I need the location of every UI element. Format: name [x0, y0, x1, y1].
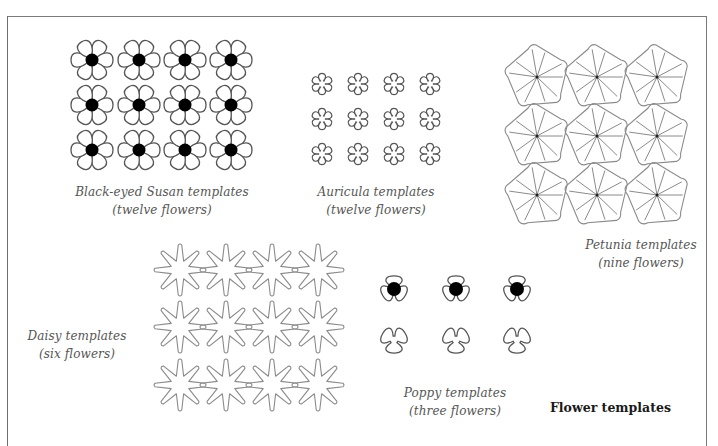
daisy-flower: [200, 244, 252, 296]
caption-count: (twelve flowers): [62, 201, 262, 219]
spoke: [636, 136, 657, 151]
black-eyed-susan-flower: [164, 41, 206, 80]
black-eyed-susan-flower: [118, 131, 160, 170]
spoke: [525, 195, 537, 220]
daisy-flower: [200, 301, 252, 353]
flower-outline: [565, 45, 627, 106]
auricula-flower: [420, 143, 440, 164]
spoke: [525, 136, 537, 161]
caption-title: Daisy templates: [12, 327, 142, 345]
auricula-flower: [348, 143, 368, 164]
flower-outline: [384, 143, 404, 164]
flower-center: [225, 99, 238, 112]
flower-outline: [505, 45, 567, 106]
petunia-flower: [565, 163, 627, 224]
black-eyed-susan-group: [71, 41, 252, 170]
flower-outline: [625, 104, 687, 165]
flower-outline: [504, 328, 531, 353]
daisy-flower: [154, 359, 206, 411]
flower-outline: [154, 359, 206, 411]
daisy-flower: [154, 301, 206, 353]
spoke: [585, 195, 597, 220]
auricula-flower: [420, 73, 440, 94]
flower-outline: [625, 163, 687, 224]
auricula-flower: [384, 108, 404, 129]
petunia-flower: [505, 163, 567, 224]
poppy-group: [381, 276, 531, 353]
auricula-group: [312, 73, 440, 164]
flower-center: [656, 76, 659, 79]
flower-center: [179, 99, 192, 112]
flower-outline: [200, 359, 252, 411]
caption-count: (six flowers): [12, 345, 142, 363]
spoke: [636, 195, 657, 210]
flower-outline: [505, 163, 567, 224]
black-eyed-susan-flower: [71, 86, 113, 125]
spoke: [532, 108, 537, 136]
black-eyed-susan-flower: [164, 86, 206, 125]
daisy-flower: [246, 244, 298, 296]
flower-center: [656, 194, 659, 197]
flower-outline: [312, 73, 332, 94]
black-eyed-susan-flower: [164, 131, 206, 170]
flower-center: [536, 76, 539, 79]
spoke: [645, 77, 657, 102]
spoke: [576, 195, 597, 210]
daisy-flower: [200, 359, 252, 411]
caption-title: Black-eyed Susan templates: [62, 183, 262, 201]
flower-center: [133, 99, 146, 112]
flower-outline: [154, 301, 206, 353]
caption-count: (twelve flowers): [296, 201, 456, 219]
auricula-caption: Auricula templates (twelve flowers): [296, 183, 456, 219]
spoke: [592, 49, 597, 77]
petunia-flower: [625, 45, 687, 106]
spoke: [652, 167, 657, 195]
spoke: [576, 77, 597, 92]
auricula-flower: [312, 108, 332, 129]
flower-outline: [384, 108, 404, 129]
flower-center: [225, 54, 238, 67]
daisy-flower: [292, 359, 344, 411]
flower-outline: [348, 143, 368, 164]
black-eyed-susan-flower: [71, 41, 113, 80]
auricula-flower: [348, 108, 368, 129]
flower-center: [86, 99, 99, 112]
spoke: [592, 167, 597, 195]
auricula-flower: [420, 108, 440, 129]
petunia-flower: [625, 104, 687, 165]
spoke: [585, 77, 597, 102]
black-eyed-susan-flower: [210, 86, 252, 125]
flower-outline: [246, 244, 298, 296]
flower-center: [449, 282, 463, 296]
spoke: [532, 49, 537, 77]
spoke: [516, 136, 537, 151]
flower-center: [179, 144, 192, 157]
flower-outline: [200, 244, 252, 296]
poppy-flower: [443, 276, 470, 301]
flower-outline: [443, 328, 470, 353]
page-title: Flower templates: [550, 400, 671, 415]
flower-center: [596, 194, 599, 197]
poppy-flower: [443, 328, 470, 353]
black-eyed-susan-flower: [118, 86, 160, 125]
flower-center: [86, 54, 99, 67]
spoke: [576, 136, 597, 151]
flower-center: [536, 135, 539, 138]
daisy-caption: Daisy templates (six flowers): [12, 327, 142, 363]
flower-outline: [348, 73, 368, 94]
poppy-caption: Poppy templates (three flowers): [380, 384, 530, 420]
flower-outline: [625, 45, 687, 106]
flower-outline: [292, 244, 344, 296]
daisy-flower: [246, 359, 298, 411]
poppy-flower: [504, 276, 531, 301]
flower-outline: [246, 359, 298, 411]
flower-outline: [565, 104, 627, 165]
black-eyed-susan-flower: [71, 131, 113, 170]
poppy-flower: [381, 328, 408, 353]
petunia-group: [505, 45, 687, 224]
black-eyed-susan-flower: [210, 131, 252, 170]
spoke: [525, 77, 537, 102]
flower-center: [86, 144, 99, 157]
flower-center: [536, 194, 539, 197]
daisy-flower: [154, 244, 206, 296]
